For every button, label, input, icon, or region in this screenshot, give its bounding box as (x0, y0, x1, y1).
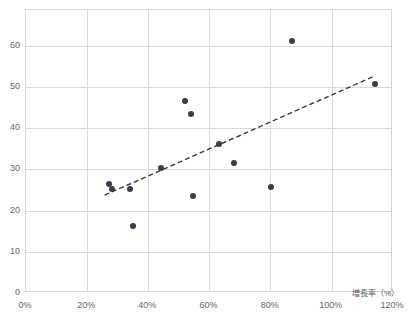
gridline-vertical (148, 10, 149, 291)
x-axis-tick-label: 80% (250, 301, 290, 310)
x-axis-tick-label: 20% (66, 301, 106, 310)
y-axis-tick-label: 50 (0, 82, 20, 91)
x-axis-tick-label: 100% (311, 301, 351, 310)
x-axis-tick-label: 0% (5, 301, 45, 310)
y-axis-tick-label: 30 (0, 164, 20, 173)
data-point (231, 160, 237, 166)
y-axis-tick-label: 10 (0, 247, 20, 256)
plot-area (25, 9, 392, 292)
y-axis-tick-label: 20 (0, 206, 20, 215)
y-axis-tick-label: 0 (0, 288, 20, 297)
data-point (372, 81, 378, 87)
data-point (188, 111, 194, 117)
gridline-vertical (270, 10, 271, 291)
data-point (289, 38, 295, 44)
gridline-vertical (209, 10, 210, 291)
scatter-chart: 01020304050600%20%40%60%80%100%120% 増長率（… (0, 0, 407, 322)
x-axis-title: 増長率（%） (352, 289, 399, 299)
x-axis-tick-label: 40% (127, 301, 167, 310)
data-point (127, 186, 133, 192)
y-axis-tick-label: 40 (0, 123, 20, 132)
x-axis-tick-label: 60% (189, 301, 229, 310)
data-point (158, 165, 164, 171)
data-point (130, 223, 136, 229)
gridline-vertical (332, 10, 333, 291)
data-point (109, 186, 115, 192)
data-point (190, 193, 196, 199)
data-point (182, 98, 188, 104)
gridline-vertical (87, 10, 88, 291)
data-point (268, 184, 274, 190)
data-point (216, 141, 222, 147)
y-axis-tick-label: 60 (0, 41, 20, 50)
x-axis-tick-label: 120% (372, 301, 407, 310)
